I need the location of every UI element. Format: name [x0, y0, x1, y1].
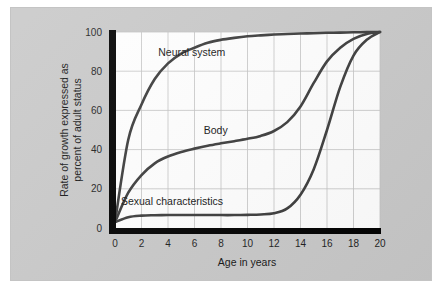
x-tick-label: 18: [348, 238, 360, 249]
growth-curves-chart: 02468101214161820 020406080100 Age in ye…: [11, 8, 431, 280]
y-tick-label: 80: [91, 66, 103, 77]
chart-container: 02468101214161820 020406080100 Age in ye…: [11, 8, 431, 280]
y-tick-label: 40: [91, 144, 103, 155]
y-tick-label: 100: [85, 27, 102, 38]
y-tick-labels: 020406080100: [85, 27, 102, 234]
y-tick-label: 20: [91, 183, 103, 194]
x-tick-label: 12: [268, 238, 280, 249]
x-tick-label: 10: [242, 238, 254, 249]
x-tick-label: 8: [218, 238, 224, 249]
y-axis-title-line2: percent of adult status: [71, 78, 83, 181]
y-tick-label: 60: [91, 105, 103, 116]
y-axis-title-line1: Rate of growth expressed as: [58, 63, 70, 197]
x-tick-label: 6: [192, 238, 198, 249]
body-label: Body: [204, 124, 229, 136]
x-axis-title: Age in years: [218, 256, 276, 268]
x-tick-labels: 02468101214161820: [112, 238, 386, 249]
x-tick-label: 14: [295, 238, 307, 249]
sexual-characteristics-label: Sexual characteristics: [121, 195, 223, 207]
x-axis-ticklets: [115, 228, 380, 234]
x-tick-label: 2: [139, 238, 145, 249]
x-tick-label: 20: [374, 238, 386, 249]
neural-system-label: Neural system: [158, 46, 225, 58]
x-tick-label: 16: [321, 238, 333, 249]
y-axis-bar: [109, 30, 116, 230]
x-tick-label: 4: [165, 238, 171, 249]
x-tick-label: 0: [112, 238, 118, 249]
y-tick-label: 0: [96, 223, 102, 234]
figure-panel: 02468101214161820 020406080100 Age in ye…: [11, 8, 431, 280]
